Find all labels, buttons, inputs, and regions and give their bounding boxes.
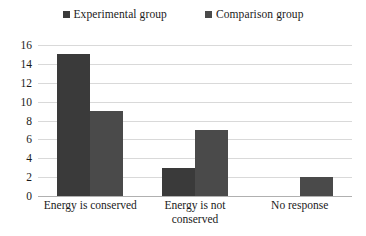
bar[interactable]	[162, 168, 195, 196]
y-axis-tick-label: 4	[26, 152, 32, 164]
bar-group	[143, 45, 248, 196]
plot-area	[38, 45, 352, 196]
bar[interactable]	[90, 111, 123, 196]
y-axis-tick-label: 0	[26, 190, 32, 202]
bar[interactable]	[195, 130, 228, 196]
legend-item-1[interactable]: Experimental group	[63, 8, 167, 20]
bar-groups	[38, 45, 352, 196]
bar-group	[247, 45, 352, 196]
legend-item-label: Experimental group	[74, 8, 167, 20]
legend-item-2[interactable]: Comparison group	[205, 8, 304, 20]
y-axis-tick-label: 10	[21, 96, 33, 108]
y-axis-tick-label: 6	[26, 133, 32, 145]
x-axis-category-label: No response	[247, 199, 352, 226]
x-axis-category-label: Energy is conserved	[38, 199, 143, 226]
bar[interactable]	[300, 177, 333, 196]
axis-baseline	[38, 196, 352, 197]
y-axis-tick-label: 16	[21, 39, 33, 51]
y-axis-tick-label: 12	[21, 77, 33, 89]
x-axis-category-labels: Energy is conservedEnergy is not conserv…	[38, 199, 352, 226]
legend-swatch-icon	[205, 11, 212, 18]
legend-swatch-icon	[63, 11, 70, 18]
bar-group	[38, 45, 143, 196]
y-axis-tick-label: 14	[21, 58, 33, 70]
y-axis-tick-label: 2	[26, 171, 32, 183]
x-axis-category-label: Energy is not conserved	[143, 199, 248, 226]
y-axis-tick-labels: 0246810121416	[0, 45, 38, 196]
chart-legend: Experimental groupComparison group	[0, 4, 366, 24]
bar-chart: Experimental groupComparison group 02468…	[0, 0, 366, 236]
y-axis-tick-label: 8	[26, 115, 32, 127]
bar[interactable]	[57, 54, 90, 196]
legend-item-label: Comparison group	[216, 8, 304, 20]
